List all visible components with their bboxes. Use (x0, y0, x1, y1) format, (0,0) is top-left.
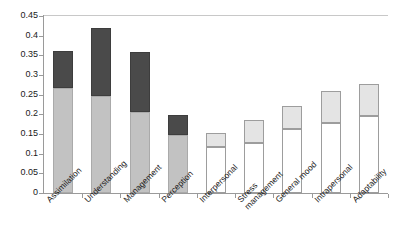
bar-segment-upper (206, 133, 226, 146)
x-axis-tick-mark (312, 194, 313, 198)
bar-segment-upper (168, 115, 188, 135)
bar-segment-upper (244, 120, 264, 143)
y-axis-tick-label: 0.25 (0, 90, 38, 99)
y-axis-tick-mark (39, 95, 43, 96)
y-axis-tick-label: 0.4 (0, 31, 38, 40)
y-axis-tick-label: 0.05 (0, 168, 38, 177)
y-axis-tick-label: 0.3 (0, 70, 38, 79)
x-axis-tick-mark (388, 194, 389, 198)
x-axis-tick-mark (82, 194, 83, 198)
bar-chart: 00.050.10.150.20.250.30.350.40.45 Assimi… (0, 0, 398, 252)
bar-segment-upper (321, 91, 341, 123)
bar-segment-upper (359, 84, 379, 117)
y-axis-tick-mark (39, 55, 43, 56)
x-axis-tick-mark (273, 194, 274, 198)
y-axis-tick-mark (39, 173, 43, 174)
y-axis-tick-mark (39, 36, 43, 37)
bar-segment-upper (53, 51, 73, 87)
y-axis-tick-mark (39, 114, 43, 115)
bar (91, 28, 111, 193)
y-axis-tick-mark (39, 154, 43, 155)
x-axis-tick-mark (120, 194, 121, 198)
bar-segment-upper (91, 28, 111, 96)
plot-area (44, 16, 388, 193)
x-axis-tick-mark (350, 194, 351, 198)
bar-segment-upper (130, 52, 150, 111)
y-axis-tick-label: 0.1 (0, 149, 38, 158)
y-axis-tick-label: 0.2 (0, 109, 38, 118)
y-axis-tick-label: 0.45 (0, 11, 38, 20)
y-axis-tick-label: 0.15 (0, 129, 38, 138)
y-axis-tick-mark (39, 134, 43, 135)
x-axis-tick-mark (235, 194, 236, 198)
bar-segment-upper (282, 106, 302, 129)
y-axis-tick-mark (39, 75, 43, 76)
x-axis-category-labels: AssimilationUnderstandingManagementPerce… (0, 193, 398, 252)
x-axis-tick-mark (159, 194, 160, 198)
y-axis-tick-label: 0.35 (0, 50, 38, 59)
x-axis-tick-mark (197, 194, 198, 198)
y-axis-tick-mark (39, 16, 43, 17)
